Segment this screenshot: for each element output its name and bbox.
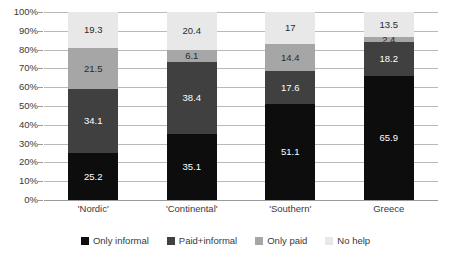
y-axis-tick-mark [38, 50, 43, 51]
y-axis-tick-mark [38, 87, 43, 88]
bar-segment-label: 20.4 [183, 26, 202, 36]
x-axis-category-label: 'Nordic' [38, 203, 148, 214]
chart-legend: Only informalPaid+informalOnly paidNo he… [0, 236, 451, 246]
y-axis-tick-mark [38, 125, 43, 126]
bar-segment[interactable]: 19.3 [68, 12, 118, 48]
bar-segment-label: 6.1 [185, 51, 198, 61]
bar-segment[interactable]: 20.4 [167, 12, 217, 50]
bar-segment-label: 14.4 [281, 53, 300, 63]
bar-segment-label: 2.4 [382, 37, 395, 42]
bar-segment[interactable]: 17 [265, 12, 315, 44]
legend-label: Only paid [267, 236, 307, 246]
y-axis-tick-label: 50% [19, 101, 38, 111]
bar-segment-label: 21.5 [84, 64, 103, 74]
y-axis-tick-label: 10% [19, 176, 38, 186]
bar-segment[interactable]: 25.2 [68, 153, 118, 200]
y-axis-tick-label: 40% [19, 120, 38, 130]
y-axis-tick-mark [38, 200, 43, 201]
bar-segment[interactable]: 51.1 [265, 104, 315, 200]
bar-column[interactable]: 51.117.614.417 [265, 12, 315, 200]
y-axis-tick-label: 90% [19, 26, 38, 36]
legend-label: Only informal [93, 236, 149, 246]
legend-item[interactable]: Only paid [255, 236, 307, 246]
y-axis-tick-label: 30% [19, 139, 38, 149]
bar-segment-label: 13.5 [380, 20, 399, 30]
legend-label: Paid+informal [179, 236, 237, 246]
stacked-bar-chart: 100%90%80%70%60%50%40%30%20%10%0% 25.234… [0, 0, 451, 262]
bar-segment-label: 35.1 [183, 162, 202, 172]
y-axis-tick-mark [38, 31, 43, 32]
bar-segment[interactable]: 34.1 [68, 89, 118, 153]
legend-item[interactable]: Only informal [81, 236, 149, 246]
y-axis-tick-mark [38, 144, 43, 145]
y-axis-tick-mark [38, 68, 43, 69]
y-axis-tick-label: 100% [14, 7, 38, 17]
x-axis-labels: 'Nordic''Continental''Southern'Greece [44, 203, 438, 219]
legend-color-swatch [167, 237, 175, 245]
legend-color-swatch [255, 237, 263, 245]
y-axis-tick-label: 80% [19, 45, 38, 55]
bar-segment-label: 65.9 [380, 133, 399, 143]
y-axis-tick-label: 0% [24, 195, 38, 205]
y-axis-tick-mark [38, 12, 43, 13]
y-axis-tick-label: 20% [19, 158, 38, 168]
y-axis-tick-mark [38, 162, 43, 163]
bar-segment-label: 17 [285, 23, 296, 33]
bar-segment[interactable]: 21.5 [68, 48, 118, 88]
bar-segment-label: 51.1 [281, 147, 300, 157]
bar-segment[interactable]: 6.1 [167, 50, 217, 61]
x-axis-category-label: 'Southern' [235, 203, 345, 214]
y-axis-tick-mark [38, 181, 43, 182]
legend-color-swatch [81, 237, 89, 245]
y-axis-tick-label: 60% [19, 82, 38, 92]
axis-baseline [44, 200, 438, 201]
bar-segment-label: 25.2 [84, 172, 103, 182]
legend-item[interactable]: No help [325, 236, 370, 246]
x-axis-category-label: 'Continental' [137, 203, 247, 214]
bar-segment[interactable]: 18.2 [364, 42, 414, 76]
bar-segment[interactable]: 38.4 [167, 62, 217, 134]
bar-segment-label: 17.6 [281, 83, 300, 93]
bar-segment-label: 34.1 [84, 116, 103, 126]
y-axis-tick-mark [38, 106, 43, 107]
x-axis-category-label: Greece [334, 203, 444, 214]
bar-segment-label: 18.2 [380, 54, 399, 64]
bar-column[interactable]: 35.138.46.120.4 [167, 12, 217, 200]
bar-segment[interactable]: 65.9 [364, 76, 414, 200]
bar-segment[interactable]: 35.1 [167, 134, 217, 200]
y-axis-labels: 100%90%80%70%60%50%40%30%20%10%0% [0, 12, 40, 200]
bar-column[interactable]: 25.234.121.519.3 [68, 12, 118, 200]
bar-segment[interactable]: 14.4 [265, 44, 315, 71]
y-axis-tick-label: 70% [19, 64, 38, 74]
legend-item[interactable]: Paid+informal [167, 236, 237, 246]
legend-color-swatch [325, 237, 333, 245]
legend-label: No help [337, 236, 370, 246]
bar-segment-label: 38.4 [183, 93, 202, 103]
bar-column[interactable]: 65.918.22.413.5 [364, 12, 414, 200]
bar-group: 25.234.121.519.335.138.46.120.451.117.61… [44, 12, 438, 200]
plot-area: 25.234.121.519.335.138.46.120.451.117.61… [44, 12, 438, 200]
bar-segment[interactable]: 17.6 [265, 71, 315, 104]
bar-segment-label: 19.3 [84, 25, 103, 35]
bar-segment[interactable]: 13.5 [364, 12, 414, 37]
bar-segment[interactable]: 2.4 [364, 37, 414, 42]
